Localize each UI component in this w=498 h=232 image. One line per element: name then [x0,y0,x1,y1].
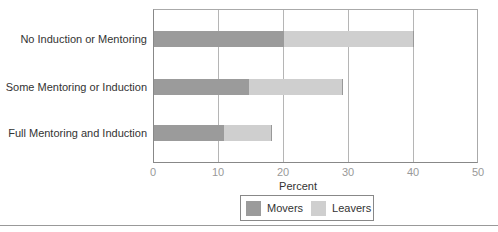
plot-area [153,9,478,163]
x-axis-title: Percent [279,180,317,192]
bar-some-mentoring [154,79,343,95]
x-tick-label: 50 [472,166,484,178]
bar-segment-leavers [249,79,343,95]
legend-item-leavers: Leavers [311,201,371,216]
bar-full-mentoring [154,125,272,141]
category-label: Some Mentoring or Induction [6,81,147,93]
x-tick-label: 20 [277,166,289,178]
legend-item-movers: Movers [246,201,303,216]
bar-no-induction [154,31,414,47]
x-tick-label: 0 [150,166,156,178]
bar-segment-movers [154,79,249,95]
x-tick-label: 10 [212,166,224,178]
legend-swatch-movers [246,201,261,216]
x-tick-label: 30 [342,166,354,178]
bar-segment-movers [154,125,224,141]
bar-segment-movers [154,31,284,47]
bottom-rule-divider [0,225,498,226]
legend-swatch-leavers [311,201,326,216]
bar-segment-leavers [284,31,414,47]
bar-segment-leavers [224,125,272,141]
legend-label: Movers [267,202,303,214]
legend-label: Leavers [332,202,371,214]
category-label: No Induction or Mentoring [20,33,147,45]
category-label: Full Mentoring and Induction [8,127,147,139]
legend: Movers Leavers [240,195,374,221]
x-tick-label: 40 [407,166,419,178]
